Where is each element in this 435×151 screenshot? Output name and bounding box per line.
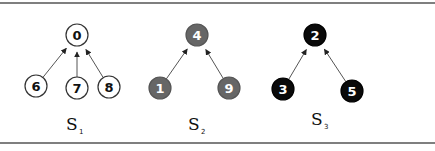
node-value: 1 <box>155 81 164 96</box>
node-value: 9 <box>224 81 233 96</box>
child-node: 8 <box>98 76 120 98</box>
node-value: 8 <box>104 80 113 95</box>
set-label-subscript: 3 <box>324 123 328 131</box>
set-label: S <box>66 114 78 134</box>
parent-pointer-arrow <box>166 49 187 79</box>
parent-pointer-arrow <box>86 49 103 77</box>
node-value: 4 <box>192 28 201 43</box>
node-value: 7 <box>72 81 81 96</box>
node-value: 6 <box>31 79 40 94</box>
set-2: 419S2 <box>149 24 240 136</box>
child-node: 5 <box>341 80 363 102</box>
parent-pointer-arrow <box>206 50 224 79</box>
node-value: 0 <box>72 28 81 43</box>
parent-pointer-arrow <box>289 50 307 80</box>
set-label-subscript: 2 <box>201 128 205 136</box>
set-label-subscript: 1 <box>79 128 83 136</box>
child-node: 3 <box>272 78 294 100</box>
set-label: S <box>188 114 200 134</box>
node-value: 5 <box>347 84 356 99</box>
child-node: 6 <box>25 75 47 97</box>
child-node: 1 <box>149 77 171 99</box>
set-1: 0678S1 <box>25 24 120 136</box>
child-node: 7 <box>66 77 88 99</box>
root-node: 2 <box>304 24 326 46</box>
set-3: 235S3 <box>272 24 363 131</box>
disjoint-set-forest-diagram: 0678S1419S2235S3 <box>0 0 435 151</box>
root-node: 4 <box>186 24 208 46</box>
node-value: 2 <box>310 28 319 43</box>
parent-pointer-arrow <box>324 49 346 82</box>
node-value: 3 <box>278 82 287 97</box>
set-label: S <box>311 109 323 129</box>
root-node: 0 <box>66 24 88 46</box>
parent-pointer-arrow <box>43 48 66 77</box>
child-node: 9 <box>218 77 240 99</box>
